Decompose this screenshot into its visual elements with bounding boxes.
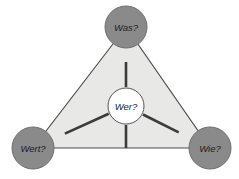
diagram-canvas: Was? Wert? Wie? Wer? [0,0,239,179]
node-wer[interactable]: Wer? [108,88,144,124]
node-wert-label: Wert? [20,143,46,154]
diagram-container: Was? Wert? Wie? Wer? [0,0,239,179]
node-was[interactable]: Was? [105,6,147,48]
node-was-label: Was? [114,22,139,33]
node-wer-label: Wer? [115,101,138,112]
node-wie-label: Wie? [199,143,221,154]
node-wie[interactable]: Wie? [189,127,231,169]
node-wert[interactable]: Wert? [12,127,54,169]
